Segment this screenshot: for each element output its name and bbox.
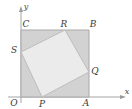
figure-canvas: O P A Q B R C S y x [0, 0, 132, 109]
vertex-label-P: P [38, 99, 46, 109]
vertex-label-Q: Q [91, 66, 99, 76]
vertex-label-S: S [11, 45, 17, 55]
vertex-label-R: R [60, 19, 68, 29]
y-axis-label: y [23, 2, 29, 11]
vertex-label-C: C [23, 19, 30, 29]
vertex-label-B: B [89, 19, 97, 29]
vertex-label-A: A [82, 98, 90, 108]
vertex-label-O: O [10, 98, 18, 108]
x-axis-label: x [125, 87, 130, 96]
geometry-figure: O P A Q B R C S y x [0, 0, 132, 109]
y-axis-arrowhead [19, 6, 23, 12]
